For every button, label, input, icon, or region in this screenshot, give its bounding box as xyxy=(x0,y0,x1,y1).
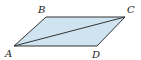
vertex-label-c: C xyxy=(127,4,135,15)
vertex-label-b: B xyxy=(37,4,45,15)
vertex-label-d: D xyxy=(91,49,100,60)
vertex-label-a: A xyxy=(4,48,12,59)
parallelogram-diagram: A B C D xyxy=(0,0,141,60)
